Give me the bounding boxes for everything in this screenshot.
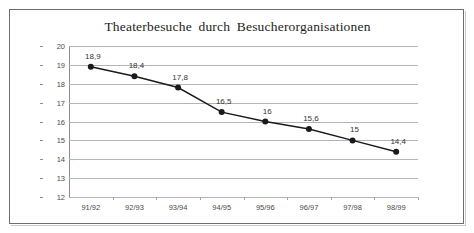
y-axis-tick-label: 18 — [43, 79, 65, 88]
x-axis-tick-mark — [287, 197, 288, 200]
x-axis-tick-mark — [113, 197, 114, 200]
x-axis-tick-label: 93/94 — [154, 203, 202, 212]
data-point-label: 18,4 — [129, 61, 145, 70]
y-axis-tick-mark — [40, 122, 43, 123]
data-point-marker — [219, 109, 225, 115]
chart-title: Theaterbesuche durch Besucherorganisatio… — [10, 19, 465, 35]
y-axis-tick-mark — [40, 103, 43, 104]
data-point-label: 17,8 — [172, 73, 188, 82]
frame-shadow-right — [465, 11, 466, 226]
y-axis-tick-label: 13 — [43, 174, 65, 183]
x-axis-tick-label: 98/99 — [372, 203, 420, 212]
y-axis-tick-label: 17 — [43, 98, 65, 107]
data-point-label: 15 — [350, 125, 359, 134]
x-axis-tick-label: 97/98 — [329, 203, 377, 212]
x-axis-tick-mark — [331, 197, 332, 200]
data-point-marker — [88, 64, 94, 70]
y-axis-tick-mark — [40, 178, 43, 179]
data-point-label: 15,6 — [303, 114, 319, 123]
y-axis-tick-mark — [40, 65, 43, 66]
frame-shadow-bottom — [11, 225, 466, 226]
y-axis-tick-label: 20 — [43, 42, 65, 51]
data-point-label: 14,4 — [390, 137, 406, 146]
x-axis-tick-label: 94/95 — [198, 203, 246, 212]
y-axis-tick-label: 16 — [43, 117, 65, 126]
data-point-marker — [175, 85, 181, 91]
x-axis-tick-label: 95/96 — [241, 203, 289, 212]
x-axis-tick-mark — [200, 197, 201, 200]
x-axis-tick-label: 96/97 — [285, 203, 333, 212]
data-point-marker — [131, 73, 137, 79]
y-axis-tick-mark — [40, 140, 43, 141]
data-series-line — [69, 46, 418, 197]
y-axis-tick-mark — [40, 46, 43, 47]
y-axis-tick-mark — [40, 159, 43, 160]
data-point-marker — [262, 119, 268, 125]
y-axis-tick-label: 19 — [43, 60, 65, 69]
y-axis-tick-label: 15 — [43, 136, 65, 145]
data-point-label: 16,5 — [216, 97, 232, 106]
plot-area — [69, 46, 418, 197]
y-axis-tick-mark — [40, 197, 43, 198]
x-axis-tick-mark — [244, 197, 245, 200]
y-axis-tick-label: 14 — [43, 155, 65, 164]
x-axis-tick-mark — [156, 197, 157, 200]
x-axis-tick-mark — [418, 197, 419, 200]
y-axis-tick-mark — [40, 84, 43, 85]
x-axis-tick-label: 92/93 — [110, 203, 158, 212]
data-point-marker — [393, 149, 399, 155]
data-point-marker — [350, 137, 356, 143]
x-axis-tick-label: 91/92 — [67, 203, 115, 212]
y-axis-tick-labels: 201918171615141312 — [43, 46, 65, 197]
chart-frame: Theaterbesuche durch Besucherorganisatio… — [9, 9, 464, 224]
series-markers — [88, 64, 399, 155]
x-axis-tick-mark — [374, 197, 375, 200]
y-axis-tick-label: 12 — [43, 193, 65, 202]
data-point-label: 16 — [263, 107, 272, 116]
data-point-marker — [306, 126, 312, 132]
data-point-label: 18,9 — [85, 52, 101, 61]
